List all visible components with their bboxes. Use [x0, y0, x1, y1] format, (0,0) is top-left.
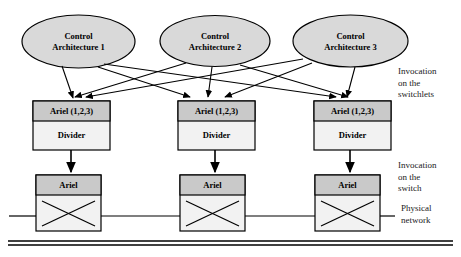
switch-3-header-band: [315, 175, 380, 195]
switch-2-header-band: [180, 175, 245, 195]
arrow-ca3-to-switchlet3: [347, 67, 355, 97]
diagram-canvas: Control Architecture 1 Control Architect…: [0, 0, 461, 257]
control-architecture-1-ellipse[interactable]: [22, 15, 135, 68]
switchlet-2-header-band: [178, 101, 255, 121]
switchlet-1-header-band: [33, 101, 110, 121]
switchlet-3-header-band: [314, 101, 391, 121]
switch-1-header-band: [36, 175, 101, 195]
arrow-ca1-to-switchlet1: [62, 66, 73, 98]
control-architecture-3-ellipse[interactable]: [293, 15, 408, 67]
control-architecture-2-ellipse[interactable]: [160, 16, 270, 67]
diagram-graphics: [0, 0, 461, 257]
arrow-ca2-to-switchlet2: [208, 67, 212, 97]
